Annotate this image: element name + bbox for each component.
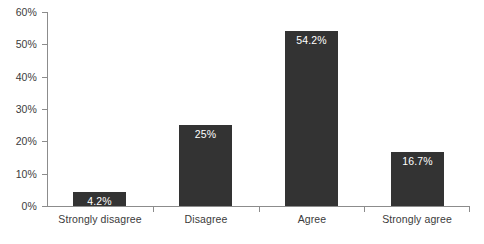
y-axis-tick-label: 50% <box>0 39 37 50</box>
y-axis-tick <box>42 12 47 13</box>
x-axis-category-tick <box>153 206 154 212</box>
bar-value-label: 16.7% <box>391 156 444 167</box>
y-axis-tick-label: 0% <box>0 201 37 212</box>
bar <box>285 31 338 206</box>
x-axis-category-label: Strongly disagree <box>47 214 153 225</box>
x-axis-end-tick <box>469 206 470 212</box>
y-axis-tick-label: 60% <box>0 7 37 18</box>
y-axis-line <box>47 12 48 207</box>
y-axis-tick <box>42 174 47 175</box>
x-axis-category-tick <box>364 206 365 212</box>
x-axis-category-label: Disagree <box>153 214 259 225</box>
y-axis-tick <box>42 141 47 142</box>
y-axis-tick-label: 20% <box>0 136 37 147</box>
bar-value-label: 54.2% <box>285 35 338 46</box>
x-axis-category-tick <box>259 206 260 212</box>
y-axis-tick <box>42 77 47 78</box>
y-axis-tick <box>42 206 47 207</box>
y-axis-tick <box>42 109 47 110</box>
y-axis-tick <box>42 44 47 45</box>
y-axis-tick-label: 10% <box>0 169 37 180</box>
x-axis-category-label: Strongly agree <box>364 214 470 225</box>
bar-value-label: 25% <box>179 129 232 140</box>
bar-value-label: 4.2% <box>73 196 126 207</box>
y-axis-tick-label: 30% <box>0 104 37 115</box>
bar-chart: 0%10%20%30%40%50%60% 4.2%Strongly disagr… <box>0 0 484 244</box>
x-axis-category-label: Agree <box>259 214 365 225</box>
y-axis-tick-label: 40% <box>0 72 37 83</box>
